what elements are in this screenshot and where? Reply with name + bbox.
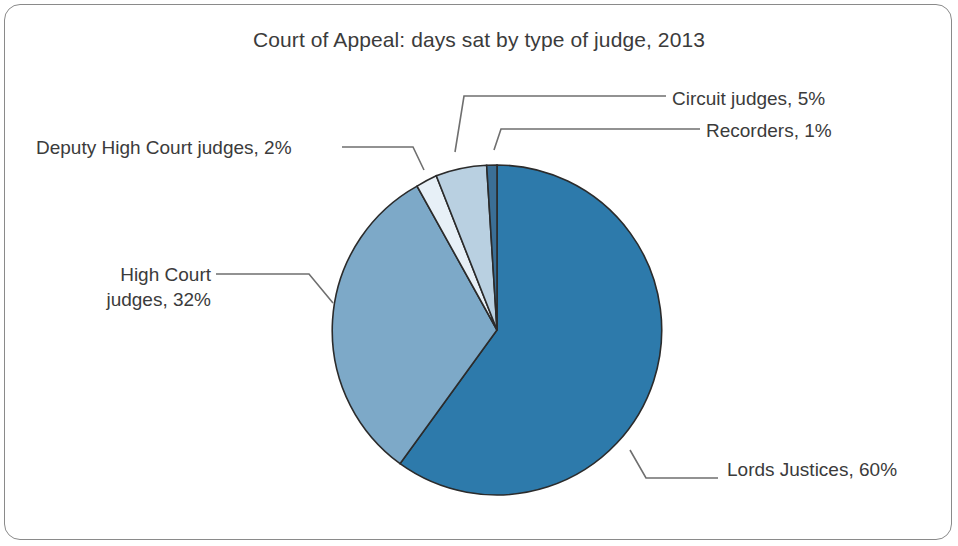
leader-line-lords-justices (630, 450, 718, 478)
pie-label-deputy-high-court-judges: Deputy High Court judges, 2% (36, 135, 292, 160)
pie-label-high-court-line1: High Court (120, 264, 211, 285)
pie-label-recorders: Recorders, 1% (706, 118, 832, 143)
pie-label-circuit-judges: Circuit judges, 5% (672, 86, 825, 111)
leader-line-high-court (216, 274, 333, 303)
leader-line-deputy-high-court (342, 147, 424, 170)
chart-page: Court of Appeal: days sat by type of jud… (0, 0, 958, 546)
leader-line-circuit-judges (455, 96, 666, 152)
pie-label-high-court-line2: judges, 32% (106, 289, 211, 310)
pie-label-lords-justices: Lords Justices, 60% (727, 457, 897, 482)
pie-label-high-court-judges: High Court judges, 32% (103, 262, 211, 312)
leader-line-recorders (494, 129, 700, 150)
